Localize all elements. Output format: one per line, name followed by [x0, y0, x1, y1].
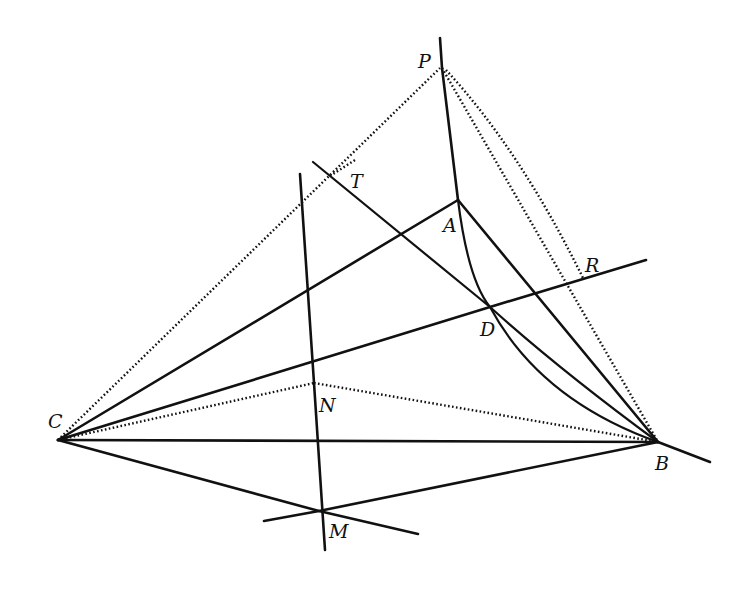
- dotted-p-b-1: [442, 68, 658, 442]
- label-a: A: [441, 214, 457, 236]
- line-c-b: [58, 440, 658, 442]
- label-b: B: [654, 452, 669, 474]
- line-vertical-p: [440, 38, 458, 200]
- label-c: C: [48, 410, 63, 432]
- dotted-n-b: [314, 383, 658, 442]
- line-b-m: [264, 442, 658, 521]
- label-n: N: [318, 394, 337, 416]
- label-r: R: [584, 254, 599, 276]
- label-p: P: [417, 50, 432, 72]
- line-c-d-r: [58, 260, 646, 440]
- line-c-m: [58, 440, 418, 534]
- dotted-c-p: [58, 68, 440, 440]
- label-m: M: [328, 520, 349, 542]
- label-t: T: [350, 170, 364, 192]
- label-d: D: [479, 318, 495, 340]
- dotted-c-n: [58, 383, 314, 440]
- line-c-a: [58, 200, 458, 440]
- geometry-diagram: P T A R D N C B M: [0, 0, 755, 590]
